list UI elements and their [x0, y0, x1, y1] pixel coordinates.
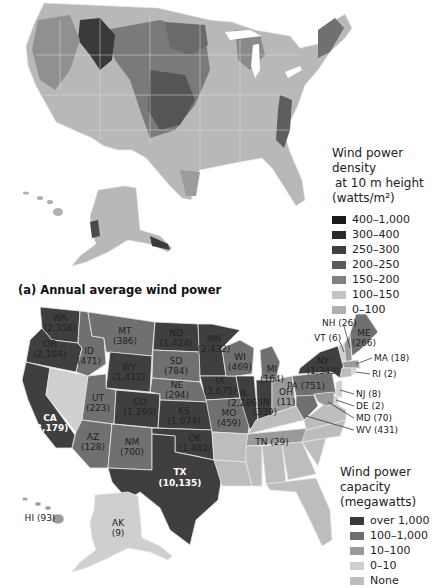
value-MN: (2,432) [198, 344, 231, 354]
callout-DE: DE (2) [356, 401, 384, 411]
state-GA [282, 442, 316, 480]
state-NC [302, 420, 346, 442]
state-CA [22, 362, 75, 448]
state-MS [246, 446, 262, 486]
state-MT [88, 312, 155, 356]
state-MO [206, 398, 250, 434]
state-WI [222, 340, 254, 376]
legend-label: 10–100 [370, 544, 411, 557]
legend-swatch [350, 577, 364, 585]
density-legend-title-2: at 10 m height [332, 176, 439, 191]
density-legend-title-3: (watts/m²) [332, 191, 439, 206]
value-IL: (2,286) [228, 398, 261, 408]
density-legend-item: 150–200 [332, 272, 439, 287]
label-NY: NY [317, 356, 330, 366]
value-IN: (339) [253, 407, 277, 417]
state-ND [153, 322, 200, 352]
legend-swatch [332, 231, 346, 239]
callout-RI: RI (2) [372, 369, 397, 379]
label-MN: MN [207, 334, 222, 344]
value-CA: (3,179) [32, 423, 69, 433]
legend-label: 150–200 [352, 273, 400, 286]
state-NM [108, 424, 152, 470]
legend-swatch [332, 246, 346, 254]
label-SD: SD [170, 356, 183, 366]
legend-swatch [332, 216, 346, 224]
lake-michigan-capacity [254, 346, 260, 378]
value-ND: (1,424) [160, 338, 193, 348]
callout-NJ: NJ (8) [356, 389, 381, 399]
callout-MA: MA (18) [374, 353, 409, 363]
state-IL [236, 376, 258, 430]
value-CO: (1,299) [124, 407, 157, 417]
value-KS: (1,074) [168, 416, 201, 426]
value-IA: (3,675) [204, 386, 237, 396]
state-CO [114, 390, 160, 428]
label-IL: IL [240, 388, 248, 398]
label-UT: UT [92, 393, 105, 403]
value-MT: (386) [113, 336, 137, 346]
alaska-density [72, 186, 172, 266]
value-AK: (9) [112, 528, 125, 538]
hawaii-density [23, 192, 63, 217]
state-AK [72, 492, 172, 572]
label-OH: OH [279, 387, 293, 397]
callout-leaders [306, 326, 372, 430]
label-IN: IN [260, 397, 269, 407]
label-ND: ND [169, 328, 183, 338]
state-ID [76, 311, 106, 376]
value-UT: (223) [86, 403, 110, 413]
label-AZ: AZ [87, 432, 99, 442]
value-TX: (10,135) [159, 478, 202, 488]
legend-swatch [350, 517, 364, 525]
legend-label: 400–1,000 [352, 213, 410, 226]
density-legend-item: 250–300 [332, 242, 439, 257]
label-OK: OK [189, 433, 203, 443]
state-NV [46, 368, 88, 432]
legend-label: over 1,000 [370, 514, 430, 527]
value-WI: (469) [228, 362, 252, 372]
state-KS [158, 400, 212, 430]
state-NH [344, 334, 352, 362]
value-MO: (459) [217, 418, 241, 428]
legend-label: 100–150 [352, 288, 400, 301]
value-NE: (294) [165, 390, 189, 400]
capacity-legend-item: 10–100 [340, 543, 439, 558]
density-legend-title-1: Wind power density [332, 146, 439, 176]
state-OR [26, 328, 82, 372]
label-WI: WI [234, 352, 246, 362]
value-AZ: (128) [81, 442, 105, 452]
capacity-legend-item: 100–1,000 [340, 528, 439, 543]
state-AL [262, 444, 286, 484]
state-AR [212, 432, 248, 462]
label-ID: ID [84, 346, 94, 356]
state-OH [272, 376, 296, 414]
density-legend-item: 100–150 [332, 287, 439, 302]
density-legend-item: 200–250 [332, 257, 439, 272]
label-MT: MT [118, 326, 132, 336]
state-OK [152, 428, 214, 460]
state-NY [298, 346, 344, 378]
legend-label: 300–400 [352, 228, 400, 241]
state-WY [106, 352, 152, 392]
state-MA [342, 360, 360, 368]
state-DE [334, 396, 338, 404]
label-NM: NM [125, 437, 140, 447]
legend-label: None [370, 574, 399, 587]
state-KY [248, 406, 304, 434]
label-MI: MI [267, 364, 277, 374]
capacity-legend-item: over 1,000 [340, 513, 439, 528]
legend-label: 250–300 [352, 243, 400, 256]
value-OR: (2,104) [34, 349, 67, 359]
capacity-legend-item: None [340, 573, 439, 588]
label-HI: HI (93) [25, 513, 56, 523]
legend-swatch [332, 306, 346, 314]
capacity-legend: Wind power capacity (megawatts) over 1,0… [340, 465, 439, 588]
state-NE [150, 378, 208, 402]
state-MI [260, 346, 280, 380]
state-AZ [72, 420, 112, 468]
legend-label: 100–1,000 [370, 529, 428, 542]
callout-WV: WV (431) [356, 425, 398, 435]
label-PA: PA (751) [287, 381, 325, 391]
state-TX [108, 434, 222, 545]
